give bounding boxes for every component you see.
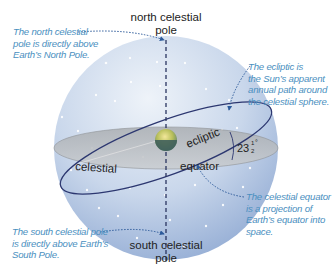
svg-text:°: ° [255,139,258,146]
north-pole-label: north celestial pole [110,11,222,37]
label-equator: equator [180,160,219,172]
south-pole-label-line1: south celestial [110,239,222,252]
note-line: is a projection of [246,203,331,215]
note-line: Earth’s equator into [246,214,331,226]
note-line: space. [246,226,331,238]
note-line: The south celestial pole [12,226,108,238]
note-line: The north celestial [13,26,98,38]
note-south-pole: The south celestial pole is directly abo… [12,226,108,261]
north-pole-label-line1: north celestial [110,11,222,24]
note-line: pole is directly above [13,38,98,50]
note-line: annual path around [248,84,329,96]
note-line: The celestial equator [246,191,331,203]
note-line: South Pole. [12,249,108,261]
note-celestial-equator: The celestial equator is a projection of… [246,191,331,237]
north-pole-label-line2: pole [110,24,222,37]
south-pole-label-line2: pole [110,252,222,265]
earth-icon [155,129,177,151]
south-pole-label: south celestial pole [110,239,222,265]
note-line: the Sun’s apparent [248,73,329,85]
note-line: The ecliptic is [248,61,329,73]
note-ecliptic: The ecliptic is the Sun’s apparent annua… [248,61,329,107]
note-line: the celestial sphere. [248,96,329,108]
note-line: is directly above Earth’s [12,238,108,250]
note-north-pole: The north celestial pole is directly abo… [13,26,98,61]
note-line: Earth’s North Pole. [13,49,98,61]
svg-text:23: 23 [237,142,249,154]
